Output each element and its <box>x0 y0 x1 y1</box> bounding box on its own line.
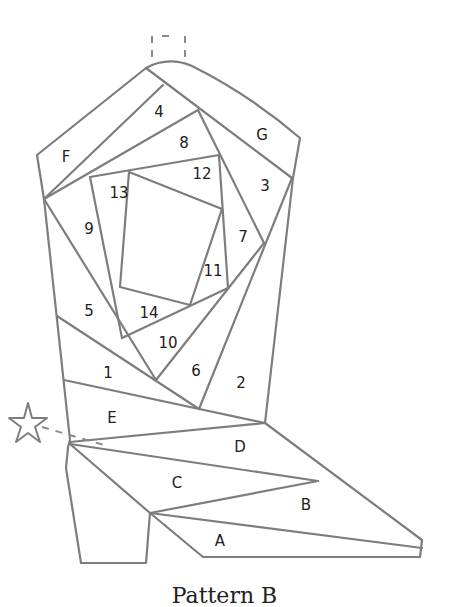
label-piece-E: E <box>107 409 116 427</box>
label-piece-7: 7 <box>238 228 248 246</box>
label-piece-3: 3 <box>260 177 270 195</box>
label-piece-6: 6 <box>191 362 201 380</box>
label-piece-11: 11 <box>203 262 222 280</box>
boot-outline <box>37 61 422 563</box>
label-piece-C: C <box>172 474 182 492</box>
label-piece-5: 5 <box>84 302 94 320</box>
label-piece-4: 4 <box>154 103 164 121</box>
label-piece-1: 1 <box>103 364 113 382</box>
label-piece-B: B <box>301 496 311 514</box>
label-piece-13: 13 <box>109 184 128 202</box>
label-piece-8: 8 <box>179 134 189 152</box>
label-piece-10: 10 <box>158 334 177 352</box>
piece-lines <box>44 68 422 548</box>
pattern-caption: Pattern B <box>0 583 449 607</box>
piece-labels: 1 2 3 4 5 6 7 8 9 10 11 12 13 14 A B C D… <box>62 103 311 550</box>
star-icon <box>9 403 104 445</box>
label-piece-2: 2 <box>236 374 246 392</box>
label-piece-12: 12 <box>192 165 211 183</box>
label-piece-G: G <box>256 126 268 144</box>
label-piece-14: 14 <box>139 304 158 322</box>
boot-pattern-diagram: 1 2 3 4 5 6 7 8 9 10 11 12 13 14 A B C D… <box>0 0 449 607</box>
label-piece-D: D <box>234 438 246 456</box>
boot-strap-tab <box>152 36 185 62</box>
label-piece-9: 9 <box>84 220 94 238</box>
label-piece-F: F <box>62 148 71 166</box>
label-piece-A: A <box>215 532 226 550</box>
